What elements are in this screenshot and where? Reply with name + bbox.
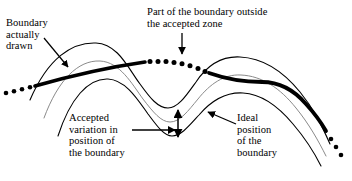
label-part-of-boundary-outside-accepted-zone: Part of the boundary outside the accepte… (147, 6, 267, 29)
boundary-zone-diagram: Boundary actually drawn Part of the boun… (0, 0, 352, 181)
drawn-boundary-right-tail (329, 137, 344, 158)
drawn-boundary-left-tail (4, 85, 33, 95)
label-boundary-actually-drawn: Boundary actually drawn (6, 17, 48, 52)
label-accepted-variation-in-position: Accepted variation in position of the bo… (69, 112, 125, 158)
drawn-boundary-inside-zone-left (35, 62, 145, 86)
drawn-boundary-outside-zone (148, 59, 208, 74)
label-ideal-position-of-boundary: Ideal position of the boundary (237, 112, 277, 158)
ideal-position-leader (208, 112, 236, 124)
